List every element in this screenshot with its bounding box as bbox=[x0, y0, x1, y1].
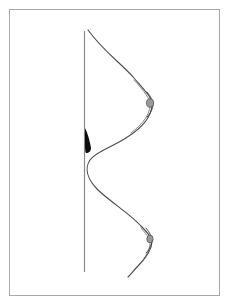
figure-canvas bbox=[0, 0, 230, 307]
figure-background bbox=[0, 0, 230, 307]
lower-bulge-cusp bbox=[147, 235, 153, 243]
line-drawing-svg bbox=[0, 0, 230, 307]
upper-bulge-cusp bbox=[146, 99, 153, 107]
